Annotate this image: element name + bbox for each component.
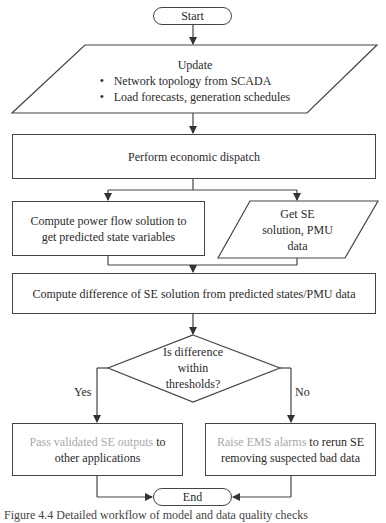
get-se-line: Get SE bbox=[280, 206, 314, 222]
economic-dispatch-label: Perform economic dispatch bbox=[128, 149, 260, 165]
get-se-line: solution, PMU bbox=[262, 222, 333, 238]
compute-difference-label: Compute difference of SE solution from p… bbox=[32, 286, 355, 302]
decision-line: Is difference bbox=[163, 344, 223, 360]
pass-outputs-faded: Pass validated SE outputs bbox=[29, 435, 153, 449]
yes-label: Yes bbox=[74, 385, 91, 400]
get-se-line: data bbox=[288, 238, 308, 254]
power-flow-box: Compute power flow solution to get predi… bbox=[12, 201, 205, 256]
figure-caption: Figure 4.4 Detailed workflow of model an… bbox=[4, 508, 308, 523]
raise-alarms-box: Raise EMS alarms to rerun SE removing su… bbox=[205, 423, 376, 476]
compute-difference-box: Compute difference of SE solution from p… bbox=[12, 273, 376, 314]
end-terminator: End bbox=[153, 488, 232, 506]
start-label: Start bbox=[181, 8, 204, 24]
decision-line: thresholds? bbox=[166, 376, 221, 392]
pass-outputs-text: Pass validated SE outputs to other appli… bbox=[21, 434, 174, 466]
update-node: Update Network topology from SCADA Load … bbox=[60, 52, 330, 110]
get-se-node: Get SE solution, PMU data bbox=[240, 203, 355, 257]
raise-alarms-faded: Raise EMS alarms bbox=[217, 435, 306, 449]
raise-alarms-text: Raise EMS alarms to rerun SE removing su… bbox=[212, 434, 369, 466]
end-label: End bbox=[183, 489, 202, 505]
update-bullets: Network topology from SCADA Load forecas… bbox=[100, 73, 291, 105]
no-label: No bbox=[295, 385, 310, 400]
update-bullet: Load forecasts, generation schedules bbox=[100, 89, 291, 105]
update-title: Update bbox=[178, 57, 213, 73]
update-bullet: Network topology from SCADA bbox=[100, 73, 291, 89]
start-terminator: Start bbox=[153, 7, 232, 25]
decision-node: Is difference within thresholds? bbox=[143, 340, 243, 396]
decision-line: within bbox=[178, 360, 209, 376]
economic-dispatch-box: Perform economic dispatch bbox=[12, 134, 376, 179]
power-flow-label: Compute power flow solution to get predi… bbox=[27, 213, 190, 245]
pass-outputs-box: Pass validated SE outputs to other appli… bbox=[12, 423, 183, 476]
